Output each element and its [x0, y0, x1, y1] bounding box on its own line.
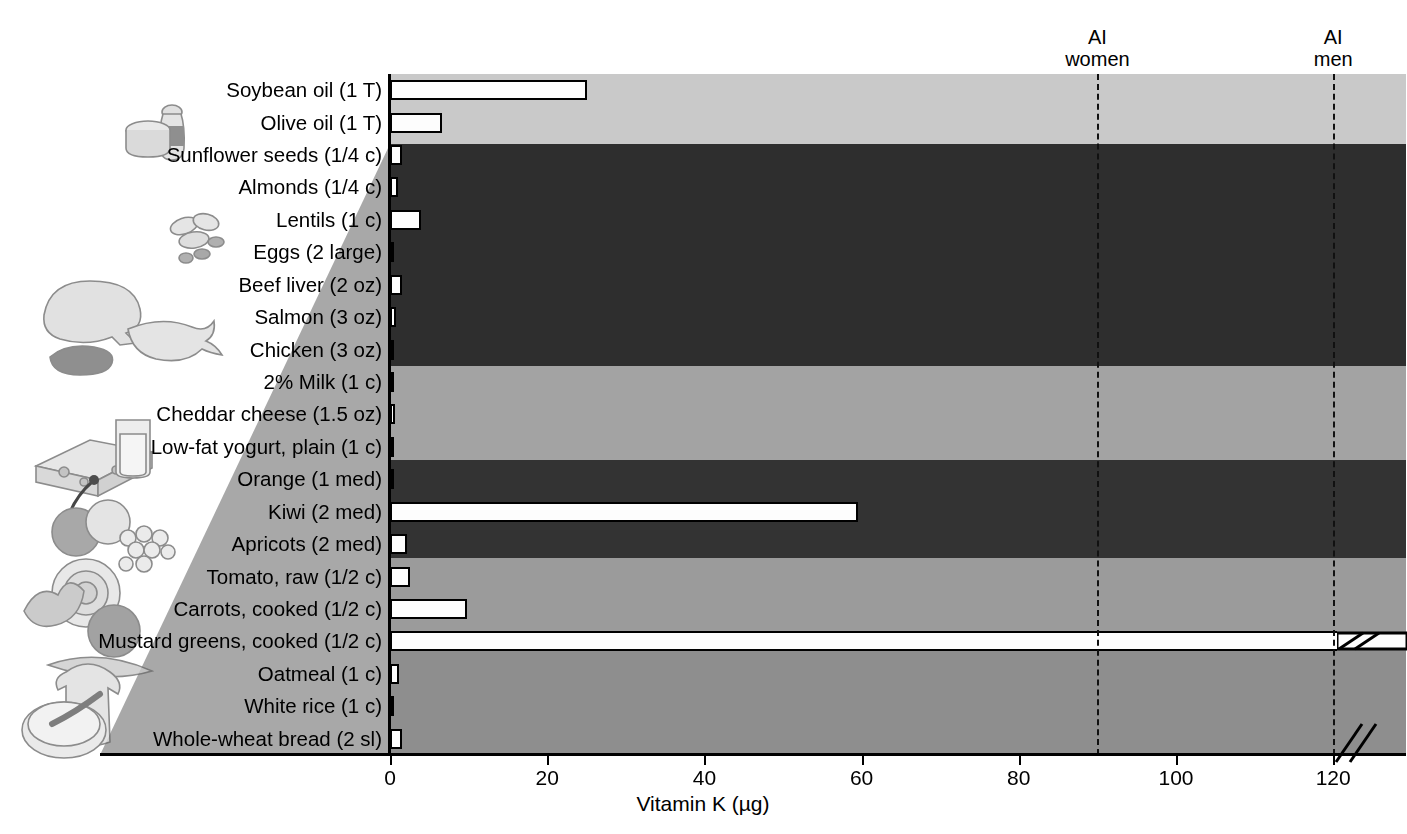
row-label: Orange (1 med): [237, 469, 382, 490]
ai-men-line2: men: [1314, 48, 1353, 70]
row-label: 2% Milk (1 c): [264, 372, 382, 393]
chart-row: Tomato, raw (1/2 c): [0, 560, 1406, 592]
chart-row: Salmon (3 oz): [0, 301, 1406, 333]
x-tick: [1176, 755, 1178, 765]
ai-men-line: [1333, 74, 1335, 755]
chart-row: Beef liver (2 oz): [0, 269, 1406, 301]
bar-tomato-raw-1-2-c: [390, 567, 410, 587]
x-tick-label: 80: [1007, 766, 1030, 790]
row-label: Apricots (2 med): [232, 534, 382, 555]
row-label: Olive oil (1 T): [260, 113, 382, 134]
chart-row: Olive oil (1 T): [0, 106, 1406, 138]
x-tick: [547, 755, 549, 765]
bar-olive-oil-1-t: [390, 113, 442, 133]
row-label: Almonds (1/4 c): [238, 177, 382, 198]
ai-women-line: [1097, 74, 1099, 755]
chart-row: Kiwi (2 med): [0, 496, 1406, 528]
chart-row: White rice (1 c): [0, 690, 1406, 722]
bar-soybean-oil-1-t: [390, 80, 587, 100]
x-tick-label: 60: [850, 766, 873, 790]
x-tick: [1333, 755, 1335, 765]
x-tick-label: 20: [536, 766, 559, 790]
chart-row: Soybean oil (1 T): [0, 74, 1406, 106]
x-tick-label: 40: [693, 766, 716, 790]
chart-row: Mustard greens, cooked (1/2 c): [0, 625, 1406, 657]
axis-break-icon: [1330, 720, 1390, 766]
row-label: Low-fat yogurt, plain (1 c): [151, 437, 382, 458]
bar-whole-wheat-bread-2-sl: [390, 729, 402, 749]
bar-apricots-2-med: [390, 534, 407, 554]
bar-lentils-1-c: [390, 210, 421, 230]
row-label: Carrots, cooked (1/2 c): [174, 599, 383, 620]
row-label: White rice (1 c): [244, 696, 382, 717]
bar-beef-liver-2-oz: [390, 275, 402, 295]
chart-row: Eggs (2 large): [0, 236, 1406, 268]
row-label: Beef liver (2 oz): [238, 275, 382, 296]
chart-row: 2% Milk (1 c): [0, 366, 1406, 398]
row-label: Cheddar cheese (1.5 oz): [156, 404, 382, 425]
row-label: Tomato, raw (1/2 c): [207, 567, 382, 588]
ai-women-line1: AI: [1065, 26, 1129, 48]
chart-row: Almonds (1/4 c): [0, 171, 1406, 203]
bar-sunflower-seeds-1-4-c: [390, 145, 402, 165]
chart-row: Oatmeal (1 c): [0, 658, 1406, 690]
row-label: Oatmeal (1 c): [258, 664, 382, 685]
row-label: Whole-wheat bread (2 sl): [153, 729, 382, 750]
row-label: Lentils (1 c): [276, 210, 382, 231]
ai-women-caption: AI women: [1065, 26, 1129, 71]
x-tick: [390, 755, 392, 765]
bar-carrots-cooked-1-2-c: [390, 599, 467, 619]
row-label: Kiwi (2 med): [268, 502, 382, 523]
x-tick-label: 120: [1316, 766, 1351, 790]
row-label: Sunflower seeds (1/4 c): [167, 145, 382, 166]
ai-men-caption: AI men: [1314, 26, 1353, 71]
x-tick: [862, 755, 864, 765]
chart-row: Low-fat yogurt, plain (1 c): [0, 431, 1406, 463]
broken-bar-cap: [1337, 631, 1407, 651]
bar-mustard-greens-cooked-1-2-c: [390, 631, 1337, 651]
chart-row: Whole-wheat bread (2 sl): [0, 723, 1406, 755]
row-label: Soybean oil (1 T): [226, 80, 382, 101]
chart-row: Carrots, cooked (1/2 c): [0, 593, 1406, 625]
chart-row: Sunflower seeds (1/4 c): [0, 139, 1406, 171]
x-tick: [704, 755, 706, 765]
row-label: Chicken (3 oz): [250, 340, 382, 361]
x-axis-title: Vitamin K (µg): [0, 792, 1406, 816]
ai-men-line1: AI: [1314, 26, 1353, 48]
chart-row: Chicken (3 oz): [0, 333, 1406, 365]
row-label: Salmon (3 oz): [254, 307, 382, 328]
ai-women-line2: women: [1065, 48, 1129, 70]
chart-rows: Soybean oil (1 T)Olive oil (1 T)Sunflowe…: [0, 74, 1406, 755]
x-tick-label: 0: [384, 766, 396, 790]
x-axis-line: [100, 753, 1406, 756]
x-tick-label: 100: [1158, 766, 1193, 790]
bar-almonds-1-4-c: [390, 177, 398, 197]
row-label: Mustard greens, cooked (1/2 c): [98, 631, 382, 652]
x-tick: [1019, 755, 1021, 765]
chart-row: Lentils (1 c): [0, 204, 1406, 236]
chart-row: Orange (1 med): [0, 463, 1406, 495]
bar-oatmeal-1-c: [390, 664, 399, 684]
y-axis-line: [388, 74, 391, 755]
bar-kiwi-2-med: [390, 502, 858, 522]
chart-row: Apricots (2 med): [0, 528, 1406, 560]
row-label: Eggs (2 large): [253, 242, 382, 263]
chart-row: Cheddar cheese (1.5 oz): [0, 398, 1406, 430]
